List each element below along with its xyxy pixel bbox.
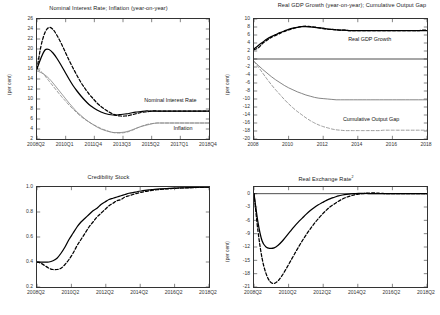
y-tick-label: -18	[229, 270, 250, 276]
x-tick-label: 2008Q2	[20, 141, 52, 147]
y-tick-label: 4	[229, 39, 250, 45]
y-tick-label: -10	[229, 95, 250, 101]
x-tick-label: 2015Q2	[135, 141, 167, 147]
x-tick-label: 2011Q4	[77, 141, 109, 147]
y-tick-label: -16	[229, 119, 250, 125]
plot-area-bottom-left	[36, 186, 210, 288]
y-tick-label: 24	[12, 25, 33, 31]
y-tick-label: 2	[229, 47, 250, 53]
series-line	[254, 193, 427, 284]
y-tick-label: -6	[229, 79, 250, 85]
y-tick-label: -12	[229, 103, 250, 109]
series-line	[254, 61, 427, 130]
series-annotation: Real GDP Growth	[348, 36, 391, 42]
x-tick-label: 2010Q2	[272, 289, 304, 295]
y-tick-label: 12	[12, 85, 33, 91]
y-tick-label: 6	[12, 115, 33, 121]
x-tick-label: 2018Q2	[410, 289, 440, 295]
y-tick-label: -14	[229, 111, 250, 117]
series-line	[254, 193, 427, 248]
panel-title-bottom-left: Credibility Stock	[0, 174, 217, 181]
x-tick-label: 2014	[341, 141, 373, 147]
x-tick-label: 2010Q1	[49, 141, 81, 147]
y-tick-label: 4	[12, 125, 33, 131]
y-tick-label: 20	[12, 45, 33, 51]
series-annotation: Inflation	[174, 125, 193, 131]
panel-real-exchange-rate: Real Exchange Rate2 (per cent) -21-18-15…	[217, 157, 435, 315]
x-tick-label: 2010Q2	[54, 289, 86, 295]
x-tick-label: 2013Q3	[106, 141, 138, 147]
series-line	[254, 26, 427, 50]
footnote-marker: 2	[352, 175, 354, 179]
y-tick-label: 0.4	[12, 258, 33, 264]
plot-area-top-left	[36, 18, 210, 140]
panel-title-top-left: Nominal Interest Rate; Inflation (year-o…	[0, 5, 217, 12]
y-tick-label: -2	[229, 63, 250, 69]
panel-gdp-output-gap: Real GDP Growth (year-on-year); Cumulati…	[217, 0, 435, 157]
y-tick-label: 8	[12, 105, 33, 111]
y-tick-label: 14	[12, 75, 33, 81]
y-tick-label: -15	[229, 257, 250, 263]
y-tick-label: -6	[229, 217, 250, 223]
y-tick-label: 0	[229, 190, 250, 196]
x-tick-label: 2016Q2	[375, 289, 407, 295]
y-tick-label: 22	[12, 35, 33, 41]
y-tick-label: 10	[12, 95, 33, 101]
y-tick-label: 0	[229, 55, 250, 61]
x-tick-label: 2010	[272, 141, 304, 147]
series-line	[37, 49, 209, 115]
y-tick-label: 6	[229, 31, 250, 37]
x-tick-label: 2012Q2	[306, 289, 338, 295]
plot-area-top-right	[253, 18, 428, 140]
series-annotation: Nominal Interest Rate	[144, 97, 196, 103]
x-tick-label: 2012Q2	[89, 289, 121, 295]
x-tick-label: 2016Q2	[158, 289, 190, 295]
y-tick-label: -12	[229, 243, 250, 249]
y-tick-label: -3	[229, 203, 250, 209]
y-tick-label: -4	[229, 71, 250, 77]
y-tick-label: -8	[229, 87, 250, 93]
y-tick-label: 16	[12, 65, 33, 71]
series-line	[37, 27, 209, 116]
y-tick-label: 1.0	[12, 183, 33, 189]
series-annotation: Cumulative Output Gap	[343, 116, 399, 122]
panel-title-bottom-right: Real Exchange Rate2	[217, 174, 435, 182]
y-tick-label: 18	[12, 55, 33, 61]
y-tick-label: -18	[229, 127, 250, 133]
panel-nominal-interest-inflation: Nominal Interest Rate; Inflation (year-o…	[0, 0, 217, 157]
x-tick-label: 2008	[237, 141, 269, 147]
x-tick-label: 2016	[375, 141, 407, 147]
panel-title-top-right: Real GDP Growth (year-on-year); Cumulati…	[217, 2, 440, 9]
panel-title-bottom-right-text: Real Exchange Rate	[298, 176, 351, 182]
panel-credibility-stock: Credibility Stock 0.20.40.60.81.02008Q22…	[0, 157, 217, 315]
x-tick-label: 2008Q2	[237, 289, 269, 295]
x-tick-label: 2012	[306, 141, 338, 147]
y-tick-label: 0.6	[12, 233, 33, 239]
plot-area-bottom-right	[253, 186, 428, 288]
x-tick-label: 2017Q1	[163, 141, 195, 147]
x-tick-label: 2008Q2	[20, 289, 52, 295]
y-tick-label: 10	[229, 15, 250, 21]
y-tick-label: 0.8	[12, 208, 33, 214]
y-tick-label: 8	[229, 23, 250, 29]
y-tick-label: 26	[12, 15, 33, 21]
y-tick-label: -9	[229, 230, 250, 236]
x-tick-label: 2014Q2	[341, 289, 373, 295]
x-tick-label: 2014Q2	[123, 289, 155, 295]
series-line	[37, 187, 209, 270]
x-tick-label: 2018	[410, 141, 440, 147]
